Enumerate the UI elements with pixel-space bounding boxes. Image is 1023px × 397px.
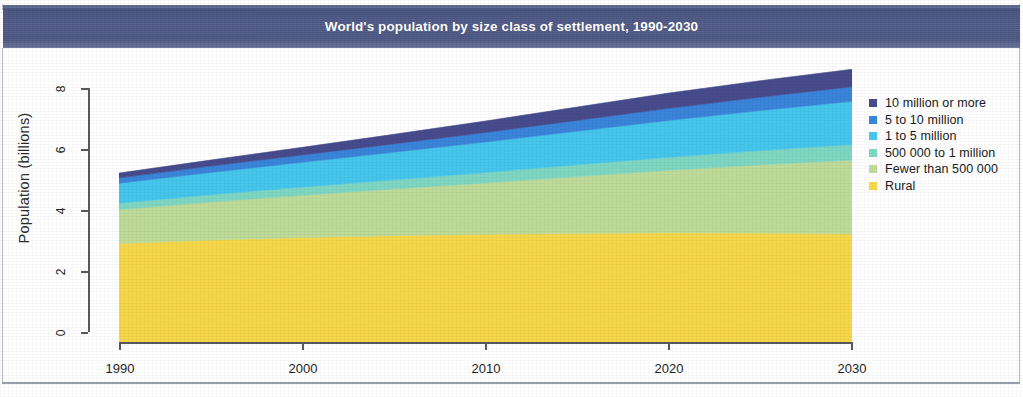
legend-item-label: 500 000 to 1 million xyxy=(885,146,995,160)
x-tick-label-2030: 2030 xyxy=(822,361,882,376)
legend-item[interactable]: 10 million or more xyxy=(869,95,1019,112)
legend-item[interactable]: Fewer than 500 000 xyxy=(869,161,1019,178)
legend-swatch-icon xyxy=(869,116,877,124)
x-tick-2030 xyxy=(851,342,853,350)
legend-item[interactable]: 500 000 to 1 million xyxy=(869,145,1019,162)
legend-item[interactable]: 1 to 5 million xyxy=(869,128,1019,145)
legend-item-label: 1 to 5 million xyxy=(885,129,957,143)
x-tick-2000 xyxy=(302,342,304,350)
title-banner: World's population by size class of sett… xyxy=(3,5,1020,48)
legend-swatch-icon xyxy=(869,132,877,140)
chart-title: World's population by size class of sett… xyxy=(325,19,698,34)
legend-swatch-icon xyxy=(869,149,877,157)
legend-swatch-icon xyxy=(869,182,877,190)
legend-item-label: Fewer than 500 000 xyxy=(885,162,998,176)
chart-plot-area: Population (billions) 8 6 4 2 0 xyxy=(0,48,1023,382)
x-tick-1990 xyxy=(119,342,121,350)
x-tick-label-2000: 2000 xyxy=(273,361,333,376)
chart-legend: 10 million or more5 to 10 million1 to 5 … xyxy=(869,95,1019,194)
frame-border-bottom xyxy=(2,382,1020,384)
x-tick-2010 xyxy=(485,342,487,350)
x-tick-2020 xyxy=(668,342,670,350)
figure-frame: World's population by size class of sett… xyxy=(0,0,1023,397)
legend-item-label: 10 million or more xyxy=(885,96,986,110)
legend-item[interactable]: Rural xyxy=(869,178,1019,195)
x-tick-label-2020: 2020 xyxy=(639,361,699,376)
x-tick-label-1990: 1990 xyxy=(90,361,150,376)
legend-item[interactable]: 5 to 10 million xyxy=(869,112,1019,129)
legend-swatch-icon xyxy=(869,165,877,173)
area-band xyxy=(119,233,852,342)
x-tick-label-2010: 2010 xyxy=(456,361,516,376)
legend-swatch-icon xyxy=(869,99,877,107)
legend-item-label: 5 to 10 million xyxy=(885,113,964,127)
legend-item-label: Rural xyxy=(885,179,915,193)
